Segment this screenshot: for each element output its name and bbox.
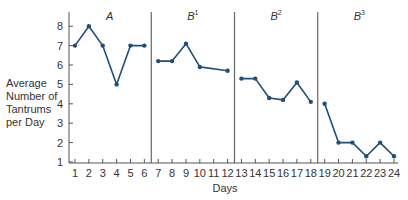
data-point [322,102,326,106]
x-tick-label: 18 [305,167,317,179]
data-point [73,43,77,47]
x-tick-label: 19 [319,167,331,179]
y-axis-title-line: per Day [6,116,45,128]
x-tick-label: 2 [86,167,92,179]
phase-label: B3 [354,9,365,22]
phase-line [241,79,310,102]
data-point [128,43,132,47]
data-point [378,140,382,144]
x-tick-label: 14 [249,167,261,179]
data-point [225,69,229,73]
x-tick-label: 11 [208,167,219,179]
y-tick-label: 7 [57,40,63,52]
phase-line [325,104,394,156]
phase-label: B2 [270,9,281,22]
y-axis-title-line: Tantrums [6,103,52,115]
x-tick-label: 20 [332,167,344,179]
y-tick-label: 2 [57,137,63,149]
x-tick-label: 4 [114,167,120,179]
y-tick-label: 8 [57,20,63,32]
data-point [350,140,354,144]
x-axis-title: Days [212,182,238,194]
x-tick-label: 9 [183,167,189,179]
x-tick-label: 16 [277,167,289,179]
x-tick-label: 23 [374,167,386,179]
y-tick-label: 6 [57,59,63,71]
data-point [198,65,202,69]
x-tick-label: 8 [169,167,175,179]
x-tick-label: 3 [100,167,106,179]
phase-label: B1 [187,9,198,22]
data-point [295,80,299,84]
tantrum-chart: AverageNumber ofTantrumsper Day 12345678… [0,0,408,200]
y-tick-label: 5 [57,78,63,90]
x-tick-label: 21 [346,167,358,179]
data-point [142,43,146,47]
x-tick-label: 24 [388,167,400,179]
data-point [87,24,91,28]
phase-line [75,26,144,84]
data-point [239,76,243,80]
phase-line [158,44,227,71]
x-tick-label: 13 [235,167,247,179]
x-tick-label: 15 [263,167,275,179]
data-point [184,41,188,45]
data-point [281,98,285,102]
phase-label-superscript: 3 [361,9,365,16]
y-axis-title-line: Average [6,77,47,89]
y-axis-title-line: Number of [6,90,58,102]
x-tick-label: 1 [72,167,78,179]
y-axis-title: AverageNumber ofTantrumsper Day [6,77,58,128]
data-point [364,154,368,158]
data-point [253,76,257,80]
x-tick-label: 7 [155,167,161,179]
y-axis: 12345678 [57,12,73,168]
data-point [267,96,271,100]
data-point [392,154,396,158]
data-point [170,59,174,63]
x-tick-label: 22 [360,167,372,179]
data-point [156,59,160,63]
phase-label-superscript: 1 [195,9,199,16]
y-tick-label: 3 [57,117,63,129]
phase-label: A [105,10,113,22]
data-point [309,100,313,104]
x-tick-label: 6 [141,167,147,179]
data-point [336,140,340,144]
phase-label-superscript: 2 [278,9,282,16]
x-tick-label: 5 [127,167,133,179]
y-tick-label: 1 [57,156,63,168]
x-tick-label: 12 [221,167,233,179]
x-tick-label: 10 [194,167,206,179]
data-point [101,43,105,47]
y-tick-label: 4 [57,98,63,110]
data-point [114,82,118,86]
x-tick-label: 17 [291,167,303,179]
